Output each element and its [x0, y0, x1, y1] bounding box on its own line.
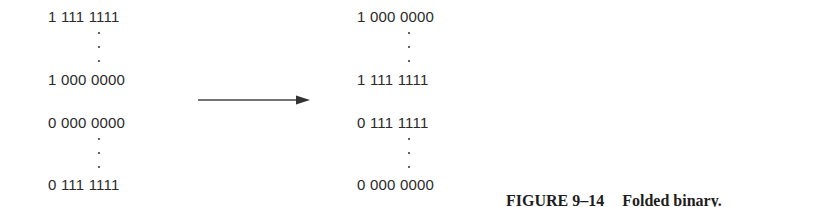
ellipsis-dot — [98, 46, 100, 48]
ellipsis-dot — [98, 152, 100, 154]
ellipsis-dot — [408, 60, 410, 62]
ellipsis-dot — [98, 166, 100, 168]
ellipsis-dot — [98, 32, 100, 34]
figure-label: FIGURE 9–14 — [506, 192, 604, 207]
right-row-3: 0 111 1111 — [357, 114, 429, 132]
ellipsis-dot — [98, 60, 100, 62]
ellipsis-dot — [408, 46, 410, 48]
left-row-2: 1 000 0000 — [48, 71, 125, 89]
ellipsis-dot — [408, 152, 410, 154]
figure-caption: FIGURE 9–14Folded binary. — [498, 174, 722, 207]
arrow-right-icon — [196, 93, 314, 107]
right-row-2: 1 111 1111 — [357, 71, 429, 89]
right-row-4: 0 000 0000 — [357, 176, 434, 194]
ellipsis-dot — [408, 166, 410, 168]
ellipsis-dot — [408, 32, 410, 34]
left-row-3: 0 000 0000 — [48, 114, 125, 132]
ellipsis-dot — [408, 138, 410, 140]
right-row-1: 1 000 0000 — [357, 8, 434, 26]
left-row-4: 0 111 1111 — [48, 176, 120, 194]
figure-title: Folded binary. — [622, 192, 722, 207]
left-row-1: 1 111 1111 — [48, 8, 120, 26]
ellipsis-dot — [98, 138, 100, 140]
